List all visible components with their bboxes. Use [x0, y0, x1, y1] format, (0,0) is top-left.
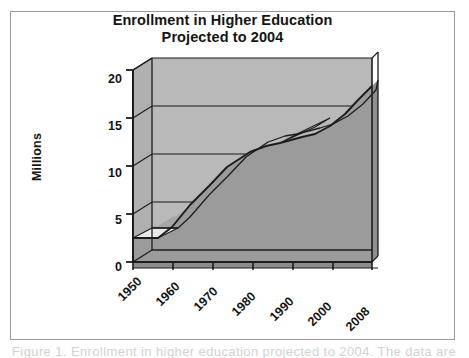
data-area-right-face [372, 80, 378, 262]
area-chart-3d [0, 0, 445, 329]
y-tick-marks [126, 70, 133, 262]
figure-page: Enrollment in Higher Education Projected… [0, 0, 469, 358]
figure-caption-cropped: Figure 1. Enrollment in higher education… [12, 347, 457, 358]
figure-caption-text: Figure 1. Enrollment in higher education… [12, 347, 457, 358]
